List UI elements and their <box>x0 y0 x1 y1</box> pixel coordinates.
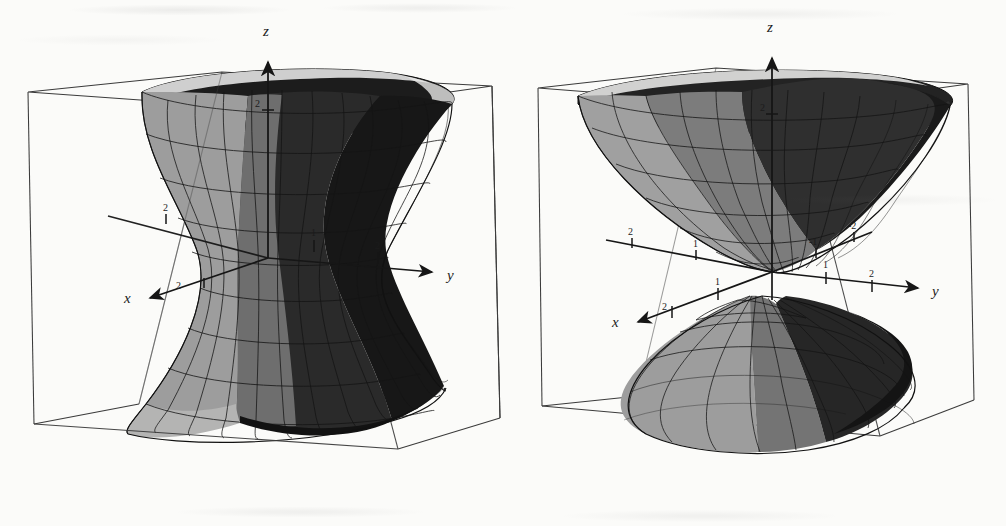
axis-label-y: y <box>930 283 939 299</box>
figure-hyperboloid-one-sheet: 1 2 2 2 2 z y x <box>0 0 520 526</box>
surface-upper-sheet <box>578 70 953 273</box>
tick-label-z-2: 2 <box>760 102 765 113</box>
axis-label-y: y <box>445 267 454 283</box>
tick-label-x-1: 1 <box>715 276 720 287</box>
axis-label-x: x <box>123 290 131 306</box>
surface-lower-sheet <box>621 296 915 454</box>
tick-label-x-negative-2: 2 <box>163 202 168 213</box>
lower-sheet-light <box>621 296 758 452</box>
tick-label-z-2: 2 <box>255 98 260 109</box>
axis-label-x: x <box>611 314 619 330</box>
tick-label-x-negative-1: -1 <box>809 236 817 247</box>
tick-label-y-1: 1 <box>823 259 828 270</box>
figure-page: 1 2 2 2 2 z y x <box>0 0 1006 526</box>
axis-label-z: z <box>766 19 773 35</box>
tick-label-y-negative-1: 1 <box>693 238 698 249</box>
tick-label-x-2: 2 <box>176 280 181 291</box>
figure-hyperboloid-two-sheets: 1 2 1 2 1 2 -1 -2 2 z y x <box>520 0 1006 526</box>
tick-label-y-1: 1 <box>311 227 316 238</box>
tick-label-y-negative-2: 2 <box>628 226 633 237</box>
surface-body-light <box>127 92 248 436</box>
axis-y-line <box>772 272 918 288</box>
axis-label-z: z <box>262 23 269 39</box>
tick-label-y-2: 2 <box>869 268 874 279</box>
tick-label-x-2: 2 <box>662 301 667 312</box>
tick-label-x-negative-2: -2 <box>848 220 856 231</box>
tick-label-y-2: 2 <box>375 240 380 251</box>
